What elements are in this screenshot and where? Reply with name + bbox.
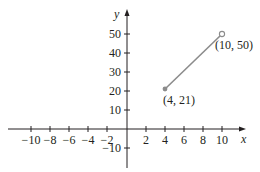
x-axis-label: x	[240, 132, 247, 146]
x-tick-label: −8	[44, 133, 57, 147]
x-tick-label: 10	[216, 133, 228, 147]
y-axis-arrow-icon	[125, 9, 130, 16]
open-endpoint-marker	[219, 31, 224, 36]
x-tick-label: 2	[143, 133, 149, 147]
x-tick-labels: −10 −8 −6 −4 −2 2 4 6 8 10	[22, 133, 228, 147]
x-tick-label: 6	[181, 133, 187, 147]
y-tick-label: 50	[109, 27, 121, 41]
y-tick-label: 30	[109, 65, 121, 79]
x-tick-label: −10	[22, 133, 41, 147]
y-tick-label: −10	[102, 141, 121, 155]
y-tick-label: 10	[109, 103, 121, 117]
x-tick-label: −6	[63, 133, 76, 147]
x-tick-label: 8	[200, 133, 206, 147]
filled-endpoint-marker	[163, 87, 168, 92]
line-segment	[165, 36, 220, 89]
y-axis-label: y	[113, 7, 120, 21]
point-label-end: (10, 50)	[215, 38, 253, 52]
coordinate-plane: x y −10 −8 −6 −4 −2 2 4 6 8 10 −10 10	[0, 0, 260, 172]
x-axis-arrow-icon	[239, 127, 246, 132]
y-tick-label: 40	[109, 46, 121, 60]
y-tick-label: 20	[109, 84, 121, 98]
x-tick-label: 4	[162, 133, 168, 147]
point-label-start: (4, 21)	[163, 93, 195, 107]
x-tick-label: −4	[82, 133, 95, 147]
